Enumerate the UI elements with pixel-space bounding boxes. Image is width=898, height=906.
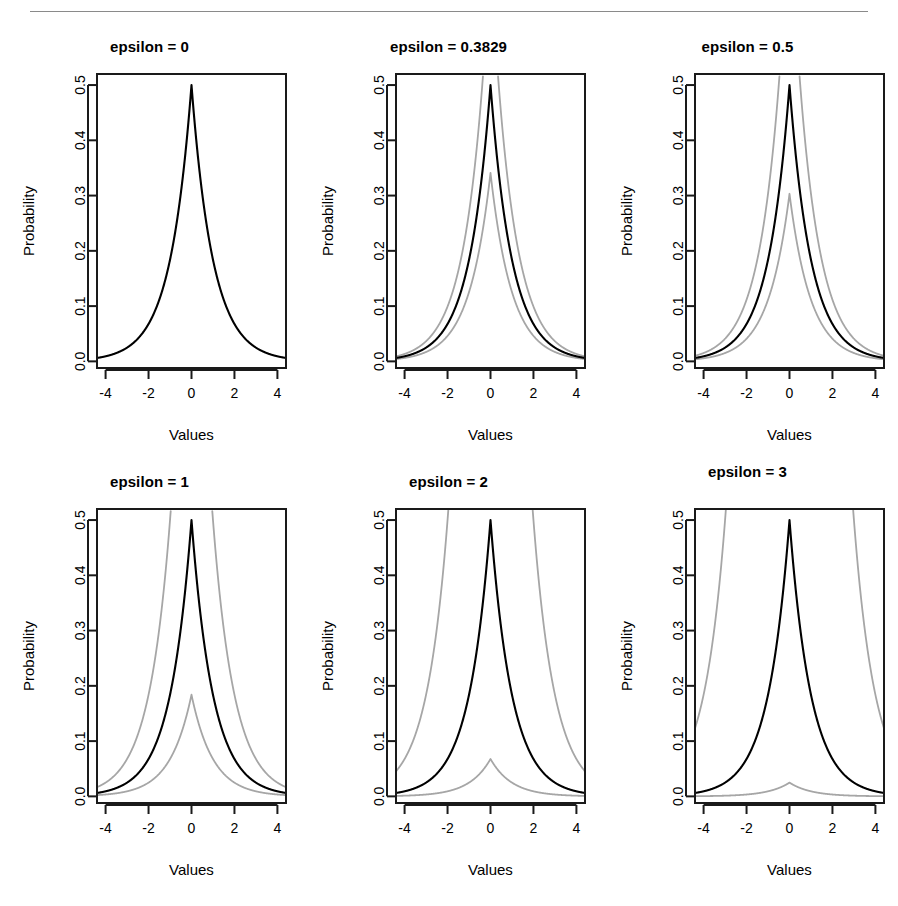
plot-panel: epsilon = 00.00.10.20.30.40.5-4-2024Valu… <box>0 20 299 460</box>
y-axis-tick-label: 0.4 <box>670 565 686 585</box>
x-axis-tick-label: 2 <box>829 820 837 836</box>
y-axis-tick-label: 0.5 <box>670 510 686 530</box>
x-axis-title: Values <box>468 861 513 878</box>
y-axis-tick-label: 0.2 <box>72 676 88 696</box>
y-axis-tick-label: 0.3 <box>72 186 88 206</box>
x-axis-title: Values <box>767 426 812 443</box>
x-axis-tick-label: -2 <box>441 385 454 401</box>
x-axis-tick-label: 2 <box>829 385 837 401</box>
y-axis-title: Probability <box>319 620 336 691</box>
y-axis-tick-label: 0.0 <box>670 351 686 371</box>
x-axis-tick-label: 0 <box>487 385 495 401</box>
plot-area: 0.00.10.20.30.40.5-4-2024ValuesProbabili… <box>598 455 897 895</box>
y-axis-tick-label: 0.4 <box>371 130 387 150</box>
x-axis-tick-label: -4 <box>398 385 411 401</box>
curve-layer <box>396 76 585 359</box>
curve-center <box>396 85 585 358</box>
plot-area: 0.00.10.20.30.40.5-4-2024ValuesProbabili… <box>598 20 897 460</box>
y-axis-tick-label: 0.3 <box>670 186 686 206</box>
plot-area: 0.00.10.20.30.40.5-4-2024ValuesProbabili… <box>0 455 299 895</box>
x-axis-title: Values <box>169 426 214 443</box>
curve-upper <box>396 76 585 356</box>
y-axis-tick-label: 0.0 <box>371 786 387 806</box>
y-axis-tick-label: 0.2 <box>371 676 387 696</box>
y-axis-tick-label: 0.3 <box>371 186 387 206</box>
plot-panel: epsilon = 10.00.10.20.30.40.5-4-2024Valu… <box>0 455 299 895</box>
plot-panel: epsilon = 0.50.00.10.20.30.40.5-4-2024Va… <box>598 20 897 460</box>
curve-lower <box>695 194 884 360</box>
y-axis-title: Probability <box>20 620 37 691</box>
y-axis-tick-label: 0.1 <box>670 731 686 751</box>
x-axis-title: Values <box>468 426 513 443</box>
plot-box <box>97 509 286 803</box>
x-axis-tick-label: -4 <box>99 820 112 836</box>
x-axis-tick-label: 2 <box>231 385 239 401</box>
curve-layer <box>396 510 585 796</box>
plot-panel: epsilon = 30.00.10.20.30.40.5-4-2024Valu… <box>598 455 897 895</box>
x-axis-tick-label: -2 <box>740 820 753 836</box>
x-axis-tick-label: -4 <box>697 385 710 401</box>
y-axis-tick-label: 0.0 <box>72 786 88 806</box>
y-axis-tick-label: 0.2 <box>371 241 387 261</box>
x-axis-tick-label: 4 <box>274 820 282 836</box>
y-axis-title: Probability <box>319 185 336 256</box>
y-axis-tick-label: 0.1 <box>72 731 88 751</box>
x-axis-tick-label: 2 <box>530 820 538 836</box>
y-axis-tick-label: 0.4 <box>371 565 387 585</box>
plot-area: 0.00.10.20.30.40.5-4-2024ValuesProbabili… <box>0 20 299 460</box>
x-axis-title: Values <box>169 861 214 878</box>
plot-panel: epsilon = 20.00.10.20.30.40.5-4-2024Valu… <box>299 455 598 895</box>
curve-upper <box>97 511 286 787</box>
y-axis-tick-label: 0.4 <box>72 565 88 585</box>
x-axis-tick-label: -2 <box>740 385 753 401</box>
plot-box <box>396 74 585 368</box>
y-axis-tick-label: 0.0 <box>371 351 387 371</box>
curve-layer <box>695 510 884 797</box>
curve-lower <box>396 173 585 359</box>
curve-center <box>97 520 286 793</box>
x-axis-tick-label: 4 <box>573 385 581 401</box>
x-axis-title: Values <box>767 861 812 878</box>
plot-box <box>695 74 884 368</box>
curve-center <box>695 520 884 793</box>
curve-center <box>396 520 585 793</box>
plot-panel: epsilon = 0.38290.00.10.20.30.40.5-4-202… <box>299 20 598 460</box>
y-axis-tick-label: 0.3 <box>72 621 88 641</box>
y-axis-tick-label: 0.5 <box>371 75 387 95</box>
y-axis-tick-label: 0.5 <box>371 510 387 530</box>
running-head <box>30 0 868 8</box>
curve-upper <box>695 76 884 355</box>
curve-center <box>695 85 884 358</box>
y-axis-tick-label: 0.5 <box>72 510 88 530</box>
y-axis-title: Probability <box>618 185 635 256</box>
x-axis-tick-label: 2 <box>530 385 538 401</box>
curve-layer <box>695 76 884 359</box>
plot-area: 0.00.10.20.30.40.5-4-2024ValuesProbabili… <box>299 20 598 460</box>
y-axis-tick-label: 0.4 <box>72 130 88 150</box>
x-axis-tick-label: 2 <box>231 820 239 836</box>
y-axis-tick-label: 0.0 <box>72 351 88 371</box>
curve-upper <box>695 510 884 729</box>
x-axis-tick-label: -2 <box>142 385 155 401</box>
x-axis-tick-label: 4 <box>872 820 880 836</box>
y-axis-tick-label: 0.2 <box>72 241 88 261</box>
y-axis-tick-label: 0.1 <box>371 296 387 316</box>
x-axis-tick-label: 4 <box>872 385 880 401</box>
y-axis-tick-label: 0.3 <box>670 621 686 641</box>
curve-layer <box>97 85 286 358</box>
x-axis-tick-label: 0 <box>188 820 196 836</box>
x-axis-tick-label: -4 <box>398 820 411 836</box>
x-axis-tick-label: -2 <box>142 820 155 836</box>
x-axis-tick-label: 0 <box>786 385 794 401</box>
curve-layer <box>97 511 286 795</box>
x-axis-tick-label: -4 <box>697 820 710 836</box>
curve-center <box>97 85 286 358</box>
figure-panel-grid: epsilon = 00.00.10.20.30.40.5-4-2024Valu… <box>0 20 898 900</box>
x-axis-tick-label: 4 <box>274 385 282 401</box>
y-axis-tick-label: 0.2 <box>670 241 686 261</box>
y-axis-tick-label: 0.5 <box>670 75 686 95</box>
x-axis-tick-label: -4 <box>99 385 112 401</box>
curve-upper <box>396 510 585 771</box>
curve-lower <box>97 695 286 795</box>
y-axis-tick-label: 0.3 <box>371 621 387 641</box>
